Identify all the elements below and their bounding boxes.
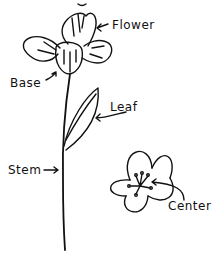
center-arrow xyxy=(152,179,184,200)
label-base: Base xyxy=(10,76,41,90)
label-leaf: Leaf xyxy=(110,100,137,114)
flower-diagram: Flower Base Leaf Stem Center xyxy=(0,0,220,255)
label-stem: Stem xyxy=(8,163,41,177)
cut-title-glyph xyxy=(78,4,86,6)
label-flower: Flower xyxy=(112,18,155,32)
label-center: Center xyxy=(168,199,211,213)
flower-head xyxy=(23,13,111,74)
base-arrow xyxy=(46,72,56,80)
stem-arrow xyxy=(44,167,58,173)
open-flower xyxy=(111,151,173,211)
flower-arrow xyxy=(97,24,108,31)
stem-line xyxy=(63,74,70,250)
